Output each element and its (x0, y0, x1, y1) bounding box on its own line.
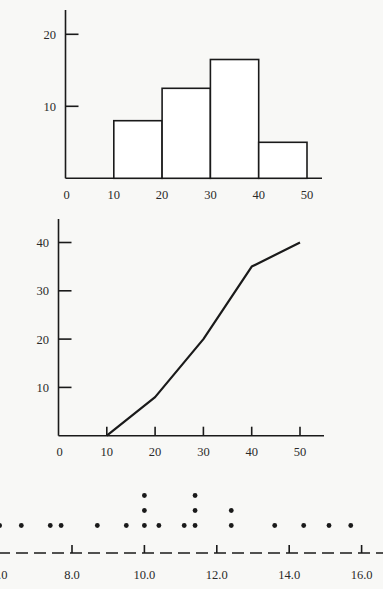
x-tick-label: 12.0 (206, 568, 228, 582)
data-dot (301, 523, 306, 528)
data-dot (142, 523, 147, 528)
figure: 102001020304050 1020304001020304050 6.08… (0, 0, 383, 589)
data-dot (182, 523, 187, 528)
data-dot (0, 523, 2, 528)
data-dot (229, 523, 234, 528)
data-dot (95, 523, 100, 528)
data-dot (348, 523, 353, 528)
data-dot (272, 523, 277, 528)
x-tick-label: 8.0 (64, 568, 80, 582)
data-dot (142, 508, 147, 513)
data-dot (48, 523, 53, 528)
data-dot (156, 523, 161, 528)
x-tick-label: 14.0 (278, 568, 300, 582)
x-tick-label: 10.0 (133, 568, 155, 582)
data-dot (59, 523, 64, 528)
data-dot (124, 523, 129, 528)
x-tick-label: 6.0 (0, 568, 7, 582)
data-dot (327, 523, 332, 528)
data-dot (142, 493, 147, 498)
data-dot (193, 493, 198, 498)
data-dot (193, 523, 198, 528)
x-tick-label: 16.0 (351, 568, 373, 582)
data-dot (19, 523, 24, 528)
data-dot (229, 508, 234, 513)
dot-plot-chart: 6.08.010.012.014.016.0 (0, 0, 383, 589)
data-dot (193, 508, 198, 513)
